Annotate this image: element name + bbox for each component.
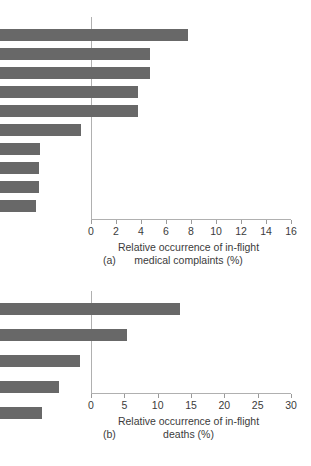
x-axis-tick-label: 15 [185,399,197,411]
x-axis-tick-label: 6 [163,225,169,237]
x-axis-tick [241,220,242,224]
bar-row: Trauma [0,329,200,341]
x-axis-tick-label: 30 [285,399,297,411]
x-axis-title-line1: Relative occurrence of in-flight [66,241,311,254]
bar-row: Syncope [0,303,200,315]
x-axis-tick-label: 14 [260,225,272,237]
x-axis-tick [124,394,125,398]
x-axis-tick-label: 10 [210,225,222,237]
x-axis-tick-label: 2 [113,225,119,237]
chart-panel-b: SyncopeTraumaGastrointestinalCardiovascu… [0,280,311,466]
x-axis-tick [291,394,292,398]
x-axis-tick [91,220,92,224]
bar-row: Cardiovascular [0,86,200,98]
x-axis-tick [91,394,92,398]
x-axis-tick [291,220,292,224]
bar [0,48,150,60]
x-axis-tick-label: 10 [152,399,164,411]
bar [0,29,188,41]
x-axis-tick [166,220,167,224]
bar-row: Syncope [0,29,200,41]
x-axis-tick-label: 5 [121,399,127,411]
x-axis-tick-label: 0 [88,225,94,237]
x-axis: 0246810121416 [91,220,291,240]
bar [0,124,81,136]
bar-row: Weakness [0,143,200,155]
bar [0,105,138,117]
bar-row: Neurological [0,124,200,136]
bar [0,329,127,341]
bar [0,143,40,155]
bar-row: Respiratory [0,105,200,117]
bar [0,303,180,315]
bar-row: Gastrointestinal [0,67,200,79]
bar-row: Vertigo [0,162,200,174]
x-axis-tick [258,394,259,398]
bar-row: Psychiatric [0,181,200,193]
bar [0,181,39,193]
x-axis-tick-label: 20 [218,399,230,411]
x-axis-tick [191,394,192,398]
x-axis-tick-label: 25 [252,399,264,411]
x-axis-tick [266,220,267,224]
bar [0,86,138,98]
bar-row: Cardiovascular [0,381,200,393]
x-axis-tick [158,394,159,398]
bar-row: Trauma [0,48,200,60]
x-axis-tick [141,220,142,224]
x-axis-tick-label: 12 [235,225,247,237]
x-axis-title-line1: Relative occurrence of in-flight [66,415,311,428]
bar [0,381,59,393]
chart-panel-a: SyncopeTraumaGastrointestinalCardiovascu… [0,0,311,280]
bar-row: Allergic [0,200,200,212]
bar [0,162,39,174]
x-axis: 051015202530 [91,394,291,414]
panel-caption: (a) [103,254,116,266]
bar [0,407,42,419]
x-axis-tick-label: 0 [88,399,94,411]
bar [0,200,36,212]
x-axis-tick [224,394,225,398]
x-axis-tick [191,220,192,224]
x-axis-tick-label: 16 [285,225,297,237]
bar [0,67,150,79]
x-axis-tick [216,220,217,224]
bar [0,355,80,367]
x-axis-tick-label: 4 [138,225,144,237]
bar-row: Gastrointestinal [0,355,200,367]
x-axis-tick-label: 8 [188,225,194,237]
panel-caption: (b) [103,428,116,440]
x-axis-tick [116,220,117,224]
